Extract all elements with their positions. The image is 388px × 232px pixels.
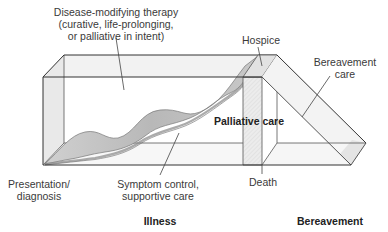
symptom-control-line2: supportive care xyxy=(113,190,203,202)
bereavement-care-label: Bereavement care xyxy=(310,56,380,80)
disease-modifying-therapy-label: Disease-modifying therapy (curative, lif… xyxy=(40,6,192,42)
palliative-care-label: Palliative care xyxy=(214,115,284,127)
disease-modifying-line3: or palliative in intent) xyxy=(40,30,192,42)
bereavement-care-line1: Bereavement xyxy=(310,56,380,68)
presentation-line1: Presentation/ xyxy=(4,178,74,190)
presentation-diagnosis-label: Presentation/ diagnosis xyxy=(4,178,74,202)
disease-modifying-line2: (curative, life-prolonging, xyxy=(40,18,192,30)
death-label: Death xyxy=(243,176,283,188)
disease-modifying-line1: Disease-modifying therapy xyxy=(40,6,192,18)
presentation-line2: diagnosis xyxy=(4,190,74,202)
symptom-control-label: Symptom control, supportive care xyxy=(113,178,203,202)
bereavement-heading: Bereavement xyxy=(290,215,370,227)
hospice-label: Hospice xyxy=(239,34,283,46)
symptom-control-line1: Symptom control, xyxy=(113,178,203,190)
illness-heading: Illness xyxy=(130,215,190,227)
bereavement-care-line2: care xyxy=(310,68,380,80)
